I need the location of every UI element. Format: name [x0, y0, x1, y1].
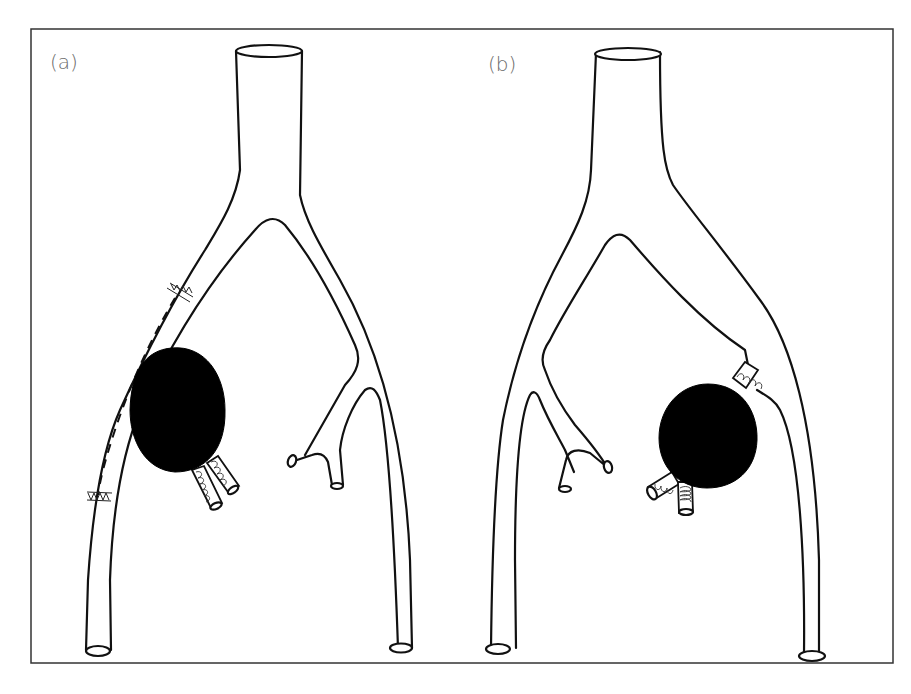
aneurysm-b [659, 384, 757, 488]
small-branch-cap-b1 [559, 486, 571, 492]
panel-label-a: (a) [50, 50, 78, 74]
vessel-outline-a [86, 51, 412, 650]
aneurysm-a [130, 348, 225, 472]
small-branch-cap-a1 [286, 454, 298, 468]
figure-frame [31, 29, 893, 663]
right-iliac-cap-b [799, 651, 825, 661]
distal-stent-a [87, 492, 112, 501]
panel-b [486, 48, 825, 661]
left-iliac-cap-b [486, 644, 510, 654]
panel-label-b: (b) [488, 52, 516, 76]
aorta-top-cap-a [236, 45, 302, 57]
aorta-top-cap-b [595, 48, 661, 60]
vessel-outline-b [491, 52, 819, 655]
right-iliac-cap-a [390, 644, 412, 653]
panel-a [86, 45, 412, 656]
small-branch-cap-a2 [331, 483, 343, 489]
small-branch-cap-b2 [603, 460, 614, 474]
left-iliac-cap-a [86, 646, 110, 656]
vascular-diagram [0, 0, 911, 694]
